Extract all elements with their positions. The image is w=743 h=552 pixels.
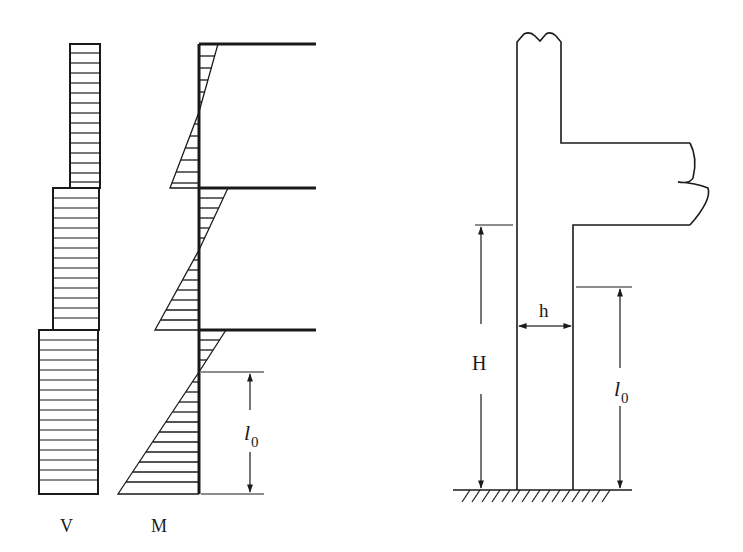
shear-block-bottom-story <box>39 330 98 494</box>
effective-length-label-left: l 0 <box>244 420 259 450</box>
svg-text:l: l <box>614 376 620 401</box>
ground-hatching <box>462 490 610 502</box>
width-label: h <box>539 300 549 321</box>
moment-triangle-bottom-story <box>118 330 226 494</box>
column-outline <box>517 33 690 490</box>
shear-diagram-label: V <box>60 516 73 536</box>
beam-break-line <box>678 143 709 225</box>
moment-triangle-top-story <box>170 44 218 188</box>
svg-text:0: 0 <box>251 434 259 450</box>
shear-diagram <box>39 44 100 494</box>
beam-bottom-and-column-right <box>573 225 690 490</box>
shear-block-middle-story <box>53 188 99 330</box>
effective-length-dimension-right <box>576 287 632 488</box>
svg-text:l: l <box>244 420 250 445</box>
moment-diagram <box>118 44 316 494</box>
moment-diagram-label: M <box>151 516 167 536</box>
moment-triangle-middle-story <box>155 188 228 330</box>
effective-length-dimension-left <box>201 372 264 494</box>
svg-text:0: 0 <box>621 390 629 406</box>
column-elevation <box>453 33 709 490</box>
shear-block-top-story <box>70 44 100 188</box>
effective-length-label-right: l 0 <box>614 376 629 406</box>
column-diagram-figure: l 0 V M H h <box>0 0 743 552</box>
height-label: H <box>472 352 486 374</box>
